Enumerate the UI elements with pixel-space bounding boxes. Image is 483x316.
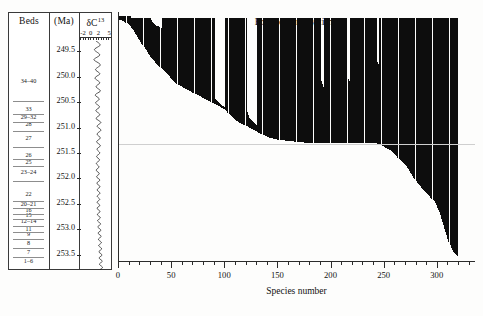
isotope-superscript: 13 <box>98 16 105 23</box>
age-tick-label: 253.5 <box>49 250 77 258</box>
age-tick-label: 252.0 <box>49 173 77 181</box>
x-tick-major <box>277 262 278 268</box>
x-tick-minor <box>362 262 363 265</box>
x-tick-minor <box>447 262 448 265</box>
bed-divider <box>13 131 44 132</box>
x-tick-minor <box>373 262 374 265</box>
isotope-tick-mark <box>93 37 94 40</box>
bed-divider <box>13 214 44 215</box>
bed-label: 7 <box>9 249 48 255</box>
x-tick-label: 100 <box>218 270 231 280</box>
x-tick-minor <box>309 262 310 265</box>
bed-divider <box>13 159 44 160</box>
x-tick-minor <box>267 262 268 265</box>
age-tick-label: 251.0 <box>49 123 77 131</box>
bed-divider <box>13 114 44 115</box>
x-tick-minor <box>394 262 395 265</box>
bed-divider <box>13 219 44 220</box>
age-tick-label: 251.5 <box>49 148 77 156</box>
bed-divider <box>13 122 44 123</box>
x-tick-label: 200 <box>324 270 337 280</box>
bed-divider <box>13 166 44 167</box>
isotope-tick-mark <box>101 37 102 40</box>
bars-layer <box>118 12 475 262</box>
isotope-mini-axis: -2025 <box>79 29 112 41</box>
x-tick-minor <box>426 262 427 265</box>
x-tick-label: 150 <box>271 270 284 280</box>
x-tick-major <box>331 262 332 268</box>
isotope-symbol: δC <box>86 18 97 28</box>
bed-label: 22 <box>9 191 48 197</box>
isotope-tick-mark <box>90 37 91 40</box>
bed-label: 27 <box>9 135 48 141</box>
bed-label: 34–40 <box>9 78 48 84</box>
isotope-tick-mark <box>85 37 86 40</box>
x-tick-minor <box>182 262 183 265</box>
age-tick-label: 252.5 <box>49 199 77 207</box>
y-axis-line <box>118 12 119 262</box>
header-age: (Ma) <box>49 16 79 26</box>
x-tick-minor <box>139 262 140 265</box>
bed-label: 8 <box>9 240 48 246</box>
bed-divider <box>13 248 44 249</box>
bed-divider <box>13 181 44 182</box>
bed-label: 23–24 <box>9 169 48 175</box>
bed-label: 33 <box>9 106 48 112</box>
bed-label: 26 <box>9 152 48 158</box>
figure-root: Beds (Ma) δC13 34–403329–322827262523–24… <box>0 0 483 316</box>
x-tick-minor <box>246 262 247 265</box>
x-tick-minor <box>352 262 353 265</box>
isotope-tick-mark <box>106 37 107 40</box>
bed-divider <box>13 201 44 202</box>
age-tick-label: 253.0 <box>49 224 77 232</box>
isotope-tick-mark <box>111 37 112 40</box>
x-tick-minor <box>458 262 459 265</box>
x-axis-ticks <box>118 262 475 270</box>
isotope-tick-mark <box>108 37 109 40</box>
x-tick-major <box>224 262 225 268</box>
species-range-bar <box>214 18 215 104</box>
isotope-tick-label: 2 <box>97 29 100 36</box>
x-tick-major <box>437 262 438 268</box>
isotope-tick-mark <box>103 37 104 40</box>
x-tick-major <box>171 262 172 268</box>
x-tick-label: 0 <box>116 270 120 280</box>
species-range-bar <box>246 18 247 126</box>
isotope-curve <box>79 41 112 270</box>
species-range-bar <box>457 18 458 257</box>
bed-divider <box>13 257 44 258</box>
range-chart-plot <box>118 12 475 262</box>
bed-divider <box>13 101 44 102</box>
isotope-tick-mark <box>80 37 81 40</box>
x-tick-minor <box>256 262 257 265</box>
isotope-tick-mark <box>98 37 99 40</box>
age-tick-label: 250.5 <box>49 97 77 105</box>
x-tick-label: 50 <box>167 270 176 280</box>
age-tick-label: 249.5 <box>49 46 77 54</box>
x-tick-minor <box>288 262 289 265</box>
x-tick-minor <box>416 262 417 265</box>
isotope-tick-mark <box>96 37 97 40</box>
x-tick-minor <box>214 262 215 265</box>
x-tick-minor <box>192 262 193 265</box>
x-axis-title: Species number <box>118 286 475 296</box>
x-tick-minor <box>469 262 470 265</box>
isotope-tick-label: 5 <box>107 29 110 36</box>
isotope-tick-labels: -2025 <box>79 29 112 37</box>
x-tick-minor <box>150 262 151 265</box>
age-tick-label: 250.0 <box>49 72 77 80</box>
x-tick-minor <box>405 262 406 265</box>
bed-label: 9 <box>9 231 48 237</box>
bed-divider <box>13 226 44 227</box>
bed-divider <box>13 232 44 233</box>
isotope-tick-mark <box>88 37 89 40</box>
header-isotope: δC13 <box>79 16 112 28</box>
x-tick-major <box>384 262 385 268</box>
x-tick-label: 300 <box>430 270 443 280</box>
isotope-tick-label: 0 <box>89 29 92 36</box>
x-tick-minor <box>203 262 204 265</box>
bed-divider <box>13 147 44 148</box>
header-beds: Beds <box>9 16 49 26</box>
isotope-tick-label: -2 <box>80 29 86 36</box>
x-tick-minor <box>299 262 300 265</box>
